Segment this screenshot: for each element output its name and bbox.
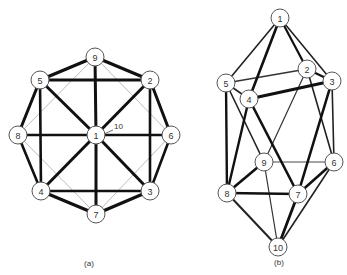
node-6: 6 [325, 153, 343, 171]
node-label: 5 [223, 79, 228, 89]
node-2: 2 [298, 60, 316, 78]
node-7: 7 [289, 185, 307, 203]
node-label: 9 [92, 53, 97, 63]
node-10: 10 [269, 238, 287, 256]
node-1: 1 [271, 9, 289, 27]
edge-5-1 [40, 80, 96, 135]
node-label: 3 [147, 187, 152, 197]
diagram-canvas: 10123456789(a) 12345678910(b) [0, 0, 347, 275]
node-5: 5 [31, 71, 49, 89]
edge-8-7 [227, 193, 298, 194]
edge-5-2 [226, 69, 307, 83]
edge-1-4 [249, 18, 280, 99]
edge-3-6 [332, 81, 334, 162]
node-label: 9 [261, 158, 266, 168]
edge-5-8 [226, 83, 227, 193]
node-label: 1 [93, 131, 98, 141]
node-6: 6 [162, 126, 180, 144]
node-5: 5 [217, 74, 235, 92]
node-4: 4 [32, 182, 50, 200]
node-label: 7 [295, 190, 300, 200]
node-label: 7 [93, 210, 98, 220]
node-label: 4 [38, 187, 43, 197]
edge-4-1 [41, 135, 96, 191]
diagram-caption: (a) [84, 259, 94, 268]
node-label: 10 [273, 243, 283, 253]
node-label: 2 [147, 76, 152, 86]
edge-9-1 [95, 57, 96, 135]
node-label: 8 [15, 131, 20, 141]
node-label: 4 [246, 95, 251, 105]
node-label: 6 [331, 158, 336, 168]
node-label: 8 [224, 189, 229, 199]
node-8: 8 [9, 126, 27, 144]
diagram-a-icosahedral-cluster: 10123456789(a) [9, 48, 180, 268]
diagram-b-bicapped-cluster: 12345678910(b) [217, 9, 343, 267]
node-label: 3 [329, 77, 334, 87]
annotation-label: 10 [114, 122, 123, 131]
node-2: 2 [141, 71, 159, 89]
node-7: 7 [87, 205, 105, 223]
node-1: 1 [87, 126, 105, 144]
edge-6-10 [278, 162, 334, 247]
edge-3-1 [96, 135, 150, 191]
node-3: 3 [323, 72, 341, 90]
node-9: 9 [86, 48, 104, 66]
node-label: 5 [37, 76, 42, 86]
node-label: 1 [277, 14, 282, 24]
node-3: 3 [141, 182, 159, 200]
node-4: 4 [240, 90, 258, 108]
diagram-caption: (b) [274, 258, 284, 267]
edge-2-9 [264, 69, 307, 162]
edge-1-5 [226, 18, 280, 83]
node-label: 6 [168, 131, 173, 141]
edge-2-1 [96, 80, 150, 135]
edge-4-3 [249, 81, 332, 99]
node-8: 8 [218, 184, 236, 202]
node-9: 9 [255, 153, 273, 171]
node-label: 2 [304, 65, 309, 75]
